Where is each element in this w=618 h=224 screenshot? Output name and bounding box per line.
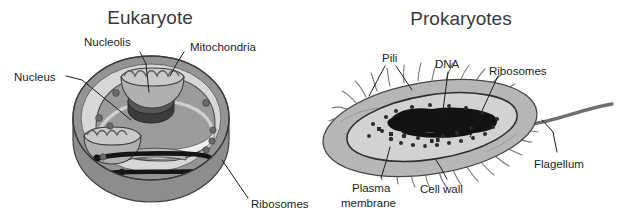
er-terminal-dot-mid [119, 169, 125, 175]
label-mitochondria: Mitochondria [190, 41, 256, 53]
eukaryote-panel-title: Eukaryote [107, 7, 193, 28]
cell-comparison-figure: Eukaryote Prokaryotes [0, 0, 618, 224]
label-flagellum: Flagellum [534, 158, 584, 170]
eukaryote-cell-illustration [73, 56, 229, 202]
label-plasma-membrane-line1: Plasma [352, 182, 391, 194]
label-nucleolis: Nucleolis [84, 36, 131, 48]
label-ribosomes-eukaryote: Ribosomes [251, 198, 309, 210]
label-plasma-membrane-line2: membrane [341, 197, 396, 209]
diagram-canvas: Eukaryote Prokaryotes [0, 0, 618, 224]
prokaryotes-panel-title: Prokaryotes [410, 8, 511, 29]
label-pili: Pili [382, 52, 397, 64]
label-dna: DNA [435, 58, 460, 70]
label-ribosomes-prokaryote: Ribosomes [489, 65, 547, 77]
label-nucleus: Nucleus [14, 71, 56, 83]
label-cell-wall: Cell wall [420, 183, 463, 195]
